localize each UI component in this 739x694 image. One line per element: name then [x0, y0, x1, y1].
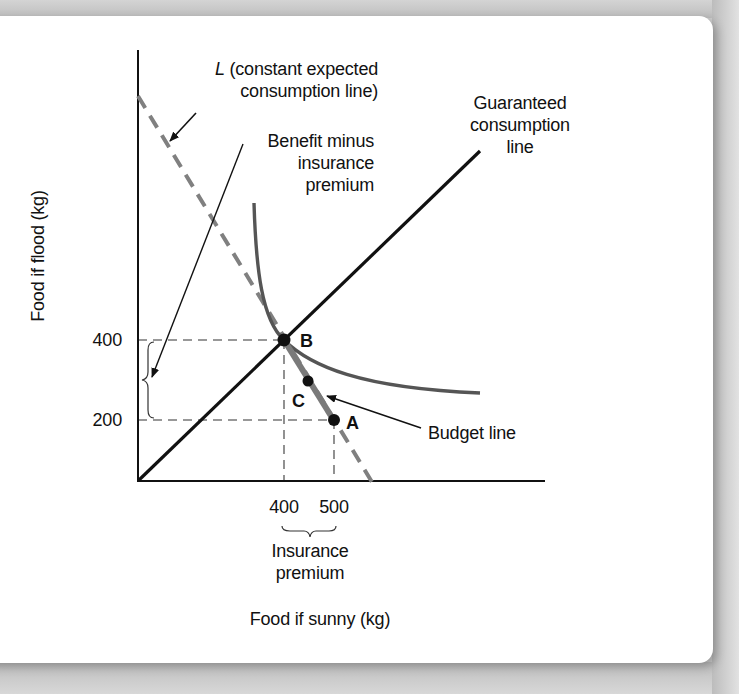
- l-line-label: L (constant expected consumption line): [180, 58, 378, 102]
- x-tick-500: 500: [314, 496, 354, 518]
- l-label-arrow: [170, 113, 196, 141]
- point-b-label: B: [300, 330, 313, 352]
- benefit-brace: [142, 342, 154, 418]
- point-a-label: A: [346, 412, 359, 434]
- benefit-minus-premium-label: Benefit minus insurance premium: [240, 130, 374, 196]
- insurance-premium-brace: [282, 526, 336, 537]
- benefit-label-arrow: [152, 144, 243, 377]
- point-c-label: C: [292, 390, 305, 412]
- indifference-curve: [254, 203, 480, 393]
- point-a-marker: [328, 414, 340, 426]
- point-c-marker: [303, 376, 314, 387]
- y-axis-title: Food if flood (kg): [27, 176, 49, 336]
- budget-label-arrow: [327, 396, 421, 428]
- y-tick-400: 400: [80, 329, 122, 351]
- l-italic-symbol: L: [215, 59, 225, 79]
- x-axis-title: Food if sunny (kg): [220, 608, 420, 630]
- guaranteed-consumption-label: Guaranteed consumption line: [455, 92, 585, 158]
- y-tick-200: 200: [80, 409, 122, 431]
- budget-line-label: Budget line: [428, 422, 516, 444]
- point-b-marker: [278, 334, 291, 347]
- x-tick-400: 400: [264, 496, 304, 518]
- insurance-premium-label: Insurance premium: [250, 540, 370, 584]
